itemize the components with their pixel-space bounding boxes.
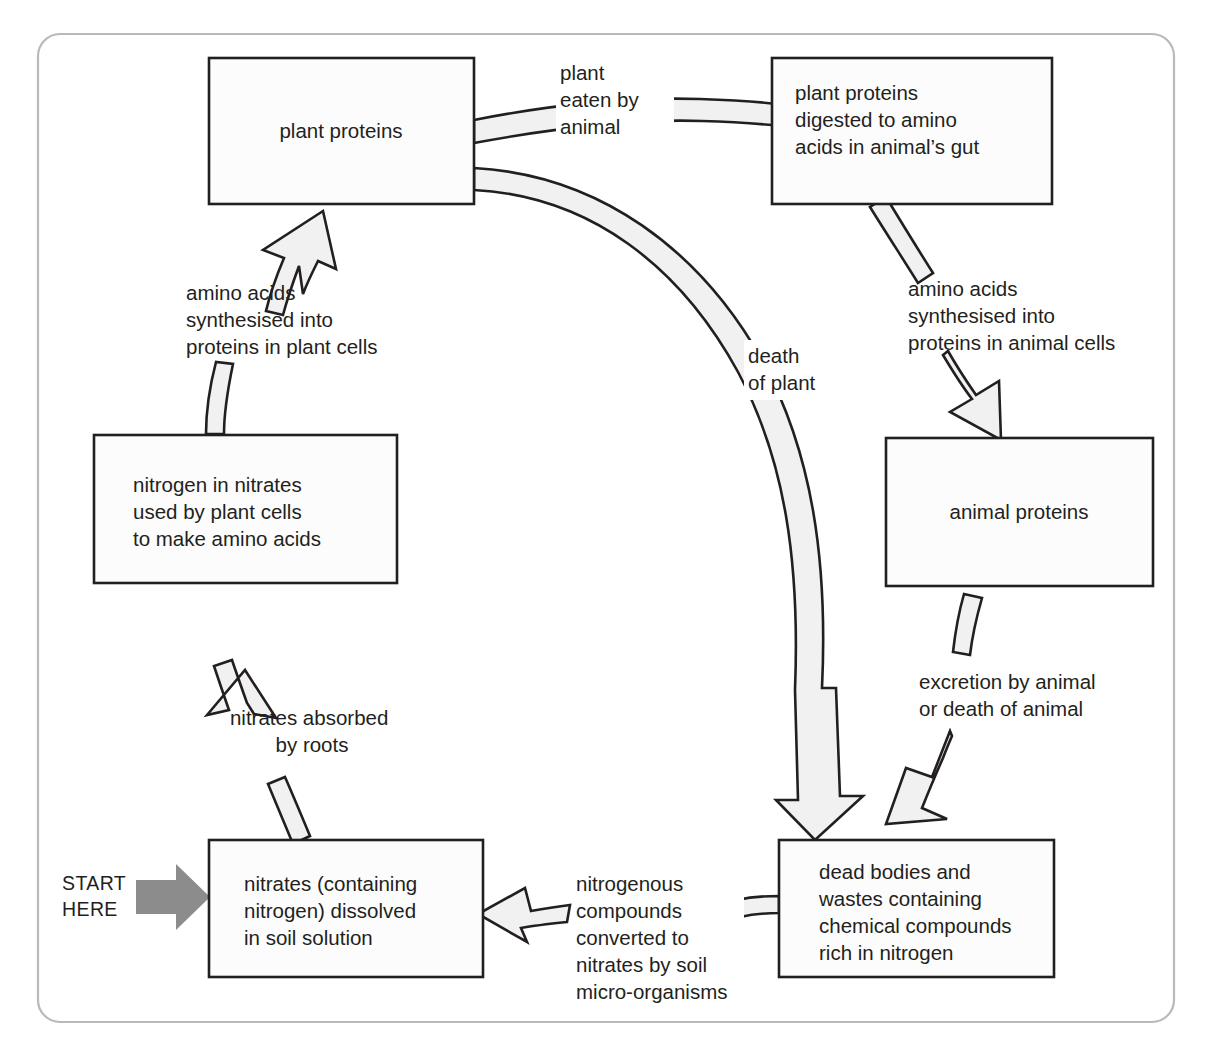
box-plant-proteins-digested xyxy=(772,58,1052,204)
box-nitrogen-in-nitrates-label: nitrogen in nitrates used by plant cells… xyxy=(133,473,321,550)
box-animal-proteins-label: animal proteins xyxy=(949,500,1088,523)
nitrogen-cycle-diagram: plant proteins plant proteins digested t… xyxy=(0,0,1205,1052)
box-plant-proteins-label: plant proteins xyxy=(279,119,402,142)
diagram-canvas: plant proteins plant proteins digested t… xyxy=(0,0,1205,1052)
